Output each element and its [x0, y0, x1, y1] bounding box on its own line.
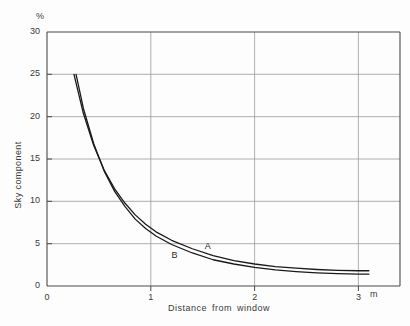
sky-component-chart: % m Sky component Distance from window 0…	[0, 0, 410, 326]
tick-marks	[47, 74, 358, 291]
plot-area	[0, 0, 410, 326]
x-tick-label-1: 1	[142, 292, 160, 302]
y-tick-label-30: 30	[18, 26, 40, 36]
x-axis-unit-label: m	[370, 289, 378, 299]
x-tick-label-3: 3	[349, 292, 367, 302]
data-curves	[74, 74, 369, 274]
y-tick-label-0: 0	[18, 280, 40, 290]
curve-label-b: B	[172, 250, 178, 260]
y-tick-label-10: 10	[18, 195, 40, 205]
y-tick-label-20: 20	[18, 111, 40, 121]
x-axis-title: Distance from window	[168, 303, 270, 313]
y-tick-label-15: 15	[18, 153, 40, 163]
x-tick-label-2: 2	[246, 292, 264, 302]
curve-b	[76, 74, 369, 274]
x-tick-label-0: 0	[38, 292, 56, 302]
curve-label-a: A	[205, 241, 211, 251]
y-axis-unit-label: %	[36, 11, 44, 21]
curve-a	[74, 74, 369, 270]
y-tick-label-25: 25	[18, 68, 40, 78]
y-tick-label-5: 5	[18, 238, 40, 248]
y-axis-title: Sky component	[13, 130, 23, 220]
